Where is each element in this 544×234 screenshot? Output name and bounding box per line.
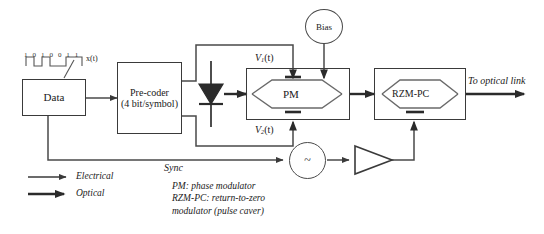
- legend-label-optical: Optical: [76, 188, 105, 198]
- bit-sequence: 1 0 1 0 0 1 1: [24, 51, 78, 59]
- label-v2: V2(t): [255, 124, 274, 135]
- block-pm-label: PM: [283, 88, 299, 100]
- wire-precoder-to-v2: [182, 116, 293, 146]
- block-precoder-line1: Pre-coder: [130, 87, 169, 98]
- signal-label-xt: x(t): [86, 54, 98, 63]
- bit-6: 1: [75, 51, 79, 59]
- amplifier-symbol: [355, 146, 392, 174]
- block-precoder[interactable]: Pre-coder (4 bit/symbol): [117, 62, 182, 134]
- bit-0: 1: [24, 51, 28, 59]
- legend-label-electrical: Electrical: [76, 171, 113, 181]
- block-precoder-line2: (4 bit/symbol): [121, 98, 178, 109]
- wire-amp-to-rzm: [388, 122, 414, 160]
- block-bias[interactable]: Bias: [305, 9, 343, 44]
- block-rzm-label: RZM-PC: [392, 88, 429, 99]
- label-v1: V1(t): [255, 52, 274, 63]
- caption-abbreviations: PM: phase modulator RZM-PC: return-to-ze…: [172, 180, 265, 217]
- diagram-canvas: 1 0 1 0 0 1 1 x(t) Data Pre-coder (4 bit…: [0, 0, 544, 234]
- block-data[interactable]: Data: [22, 79, 86, 116]
- label-v1-arg: (t): [264, 52, 273, 63]
- label-v2-arg: (t): [264, 124, 273, 135]
- block-bias-label: Bias: [316, 22, 332, 32]
- block-oscillator[interactable]: ~: [289, 142, 326, 179]
- label-sync: Sync: [164, 162, 183, 173]
- block-oscillator-label: ~: [304, 153, 311, 168]
- block-data-label: Data: [44, 91, 65, 103]
- label-optical-link: To optical link: [468, 75, 525, 86]
- laser-diode-symbol: [199, 61, 223, 127]
